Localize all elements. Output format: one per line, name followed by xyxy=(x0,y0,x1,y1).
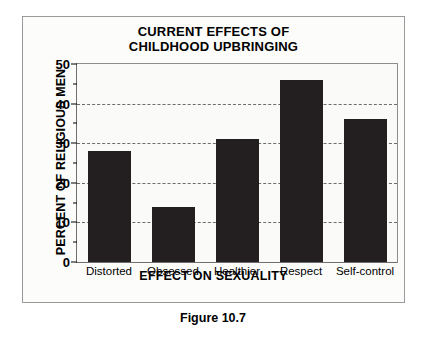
x-axis-title: EFFECT ON SEXUALITY xyxy=(23,269,404,283)
y-tick-mark xyxy=(71,64,77,65)
x-axis-line xyxy=(76,262,397,263)
y-tick-minor xyxy=(73,163,77,164)
y-tick-minor xyxy=(73,202,77,203)
y-tick-label: 30 xyxy=(56,136,70,151)
bar xyxy=(216,139,259,262)
y-tick-mark xyxy=(71,262,77,263)
y-tick-mark xyxy=(71,143,77,144)
gridline xyxy=(77,104,397,105)
y-tick-label: 50 xyxy=(56,57,70,72)
y-tick-mark xyxy=(71,103,77,104)
y-tick-label: 0 xyxy=(63,255,70,270)
figure-caption: Figure 10.7 xyxy=(0,311,426,325)
chart-title: CURRENT EFFECTS OF CHILDHOOD UPBRINGING xyxy=(23,24,404,54)
y-tick-label: 20 xyxy=(56,175,70,190)
y-tick-mark xyxy=(71,222,77,223)
y-tick-minor xyxy=(73,242,77,243)
plot-area: 01020304050 DistortedObsessedHealthierRe… xyxy=(76,63,398,263)
chart-title-line-1: CURRENT EFFECTS OF xyxy=(23,24,404,39)
y-tick-mark xyxy=(71,182,77,183)
figure-frame: CURRENT EFFECTS OF CHILDHOOD UPBRINGING … xyxy=(22,16,405,303)
bar xyxy=(344,119,387,262)
y-tick-label: 40 xyxy=(56,96,70,111)
bar xyxy=(280,80,323,262)
bar xyxy=(88,151,131,262)
y-axis-title: PERCENT OF RELIGIOUS MEN xyxy=(54,62,68,262)
chart-title-line-2: CHILDHOOD UPBRINGING xyxy=(23,39,404,54)
y-tick-label: 10 xyxy=(56,215,70,230)
y-tick-minor xyxy=(73,83,77,84)
y-tick-minor xyxy=(73,123,77,124)
bar xyxy=(152,207,195,262)
